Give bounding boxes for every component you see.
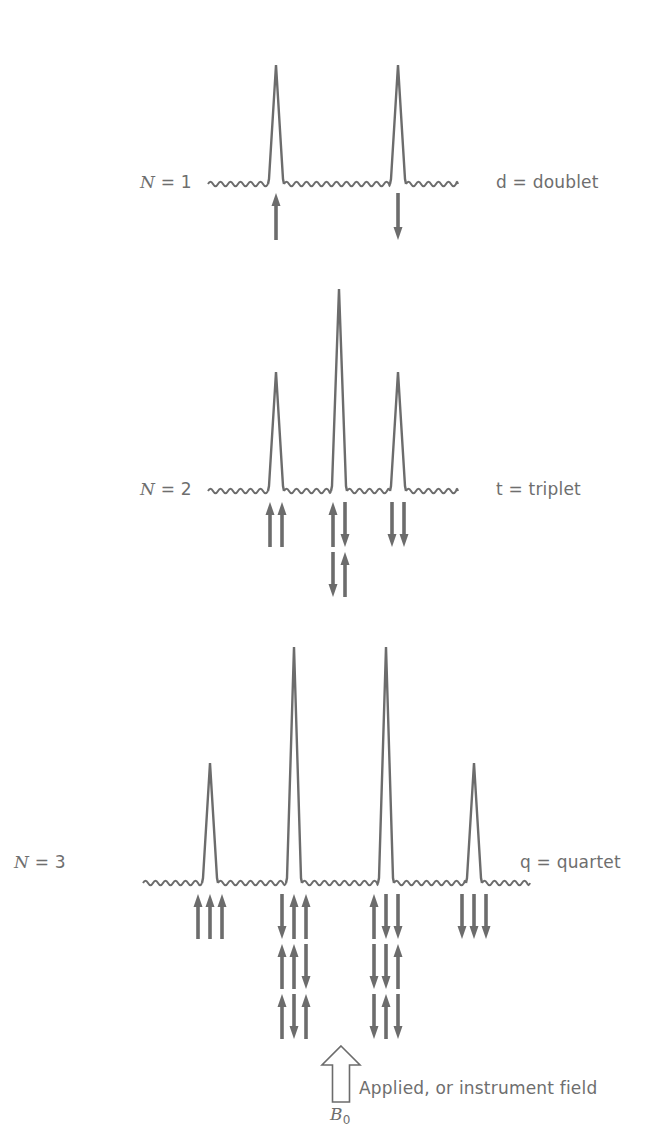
- splitting-diagram: [0, 0, 650, 1135]
- field-symbol-letter: B: [330, 1104, 343, 1124]
- multiplet-doublet: [208, 65, 458, 240]
- field-symbol: B0: [330, 1104, 351, 1127]
- spin-down-arrow-icon: [458, 894, 467, 939]
- baseline-noise: [394, 881, 466, 885]
- n-variable: N: [140, 479, 155, 499]
- baseline-noise: [208, 182, 268, 186]
- spin-up-arrow-icon: [329, 502, 338, 547]
- spin-up-arrow-icon: [382, 994, 391, 1039]
- peak: [458, 763, 491, 939]
- spin-up-arrow-icon: [302, 994, 311, 1039]
- spin-down-arrow-icon: [341, 502, 350, 547]
- n-value: 2: [181, 479, 192, 499]
- applied-field-arrow-icon: [322, 1046, 360, 1102]
- spin-down-arrow-icon: [470, 894, 479, 939]
- spin-down-arrow-icon: [382, 894, 391, 939]
- spin-up-arrow-icon: [341, 552, 350, 597]
- n-label-2: N = 2: [140, 479, 192, 499]
- n-variable: N: [140, 172, 155, 192]
- field-symbol-subscript: 0: [343, 1113, 351, 1127]
- spin-down-arrow-icon: [370, 994, 379, 1039]
- peak: [266, 372, 287, 547]
- spin-up-arrow-icon: [278, 994, 287, 1039]
- spin-up-arrow-icon: [206, 894, 215, 939]
- n-label-3: N = 3: [14, 852, 66, 872]
- spin-up-arrow-icon: [272, 193, 281, 240]
- peak: [268, 65, 284, 240]
- peak: [390, 65, 406, 240]
- multiplet-name-triplet: t = triplet: [496, 479, 581, 499]
- spin-down-arrow-icon: [394, 994, 403, 1039]
- spin-down-arrow-icon: [329, 552, 338, 597]
- spin-down-arrow-icon: [394, 894, 403, 939]
- peak: [194, 763, 227, 939]
- n-value: 3: [55, 852, 66, 872]
- multiplet-triplet: [208, 289, 458, 597]
- baseline-noise: [208, 489, 268, 493]
- spin-up-arrow-icon: [194, 894, 203, 939]
- peak: [278, 647, 311, 1039]
- n-label-1: N = 1: [140, 172, 192, 192]
- multiplet-quartet: [143, 647, 530, 1039]
- baseline-noise: [143, 881, 202, 885]
- spin-down-arrow-icon: [388, 502, 397, 547]
- spin-down-arrow-icon: [400, 502, 409, 547]
- spin-up-arrow-icon: [278, 944, 287, 989]
- baseline-noise: [406, 489, 458, 493]
- baseline-noise: [406, 182, 458, 186]
- spin-up-arrow-icon: [290, 894, 299, 939]
- spin-down-arrow-icon: [278, 894, 287, 939]
- spin-down-arrow-icon: [382, 944, 391, 989]
- baseline-noise: [284, 489, 331, 493]
- n-value: 1: [181, 172, 192, 192]
- spin-up-arrow-icon: [302, 894, 311, 939]
- spin-down-arrow-icon: [370, 944, 379, 989]
- spin-up-arrow-icon: [218, 894, 227, 939]
- spin-up-arrow-icon: [278, 502, 287, 547]
- field-description: Applied, or instrument field: [359, 1078, 597, 1098]
- spin-up-arrow-icon: [290, 944, 299, 989]
- spin-down-arrow-icon: [302, 944, 311, 989]
- baseline-noise: [284, 182, 390, 186]
- spin-up-arrow-icon: [394, 944, 403, 989]
- spin-down-arrow-icon: [290, 994, 299, 1039]
- baseline-noise: [302, 881, 378, 885]
- baseline-noise: [482, 881, 530, 885]
- baseline-noise: [347, 489, 390, 493]
- spin-down-arrow-icon: [482, 894, 491, 939]
- spin-up-arrow-icon: [266, 502, 275, 547]
- multiplet-groups: [143, 65, 530, 1039]
- spin-down-arrow-icon: [394, 193, 403, 240]
- multiplet-name-quartet: q = quartet: [520, 852, 621, 872]
- peak: [388, 372, 409, 547]
- peak: [370, 647, 403, 1039]
- peak: [329, 289, 350, 597]
- spin-up-arrow-icon: [370, 894, 379, 939]
- multiplet-name-doublet: d = doublet: [496, 172, 599, 192]
- baseline-noise: [218, 881, 286, 885]
- n-variable: N: [14, 852, 29, 872]
